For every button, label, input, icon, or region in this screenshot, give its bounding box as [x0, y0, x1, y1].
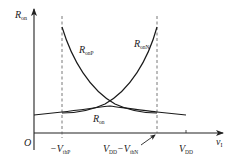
tick-label-neg-vthp: −VthP — [50, 143, 70, 155]
tick-label-vdd-vthn: VDD−VthN — [103, 143, 138, 155]
series-label-ron: Ron — [92, 113, 105, 125]
series-label-ronn: RonN — [133, 38, 150, 50]
origin-label: O — [24, 137, 31, 148]
tick-label-vdd: VDD — [179, 143, 193, 155]
curve-ron — [34, 106, 186, 115]
curve-ronp — [62, 27, 157, 113]
series-label-ronp: RonP — [78, 44, 94, 56]
chart-canvas: Ron O vI −VthP VDD−VthN VDD RonP RonN Ro… — [0, 0, 238, 164]
x-axis-label: vI — [216, 136, 222, 148]
annotation-arrow — [141, 135, 155, 145]
y-axis-label: Ron — [14, 9, 27, 21]
